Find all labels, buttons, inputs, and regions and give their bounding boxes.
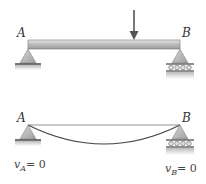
label-a-bottom: A [17, 111, 26, 125]
label-b-bottom: B [182, 111, 191, 125]
deflection-curve [28, 125, 180, 144]
label-a-top: A [17, 26, 26, 40]
pin-support-icon [15, 49, 41, 70]
beam [28, 40, 180, 49]
boundary-condition-b: vB= 0 [165, 162, 197, 177]
roller-support-icon [166, 49, 194, 79]
rhs: = 0 [177, 162, 197, 175]
boundary-condition-a: vA= 0 [14, 158, 46, 173]
load-arrow-icon [130, 10, 139, 40]
loaded-beam [15, 10, 194, 79]
pin-support-icon [15, 125, 41, 146]
rhs: = 0 [26, 158, 46, 171]
deflected-beam [15, 125, 194, 155]
beam-diagram [0, 0, 206, 184]
label-b-top: B [182, 26, 191, 40]
